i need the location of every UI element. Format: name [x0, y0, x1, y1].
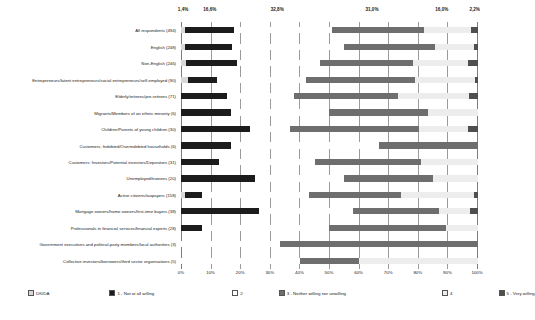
top-percent-annotation: 32,8% [271, 7, 284, 12]
category-label: Customers: Investors/Potential investors… [69, 159, 176, 164]
bar-row [181, 241, 478, 247]
bar-row [181, 60, 478, 66]
legend-swatch-icon [279, 290, 285, 296]
bar-segment-4 [419, 126, 469, 132]
category-label: Entrepreneurs/latent entrepreneurs/socia… [32, 77, 176, 82]
legend-label: 4 [450, 291, 452, 296]
bar-segment-3 [300, 258, 359, 264]
bar-segment-5 [468, 126, 478, 132]
bar-segment-1 [185, 44, 233, 50]
legend-label: DK/DA [36, 291, 49, 296]
top-percent-annotation: 16,0% [435, 7, 448, 12]
bar-segment-3 [320, 60, 413, 66]
bar-segment-4 [428, 109, 478, 115]
bar-segment-2 [181, 258, 300, 264]
bar-row [181, 126, 478, 132]
bar-segment-1 [181, 93, 227, 99]
bar-segment-2 [202, 225, 329, 231]
bar-segment-5 [470, 208, 478, 214]
legend-label: 3 - Neither willing nor unwilling [287, 291, 346, 296]
category-label: Elderly/retirees/pre-retirees (71) [115, 94, 176, 99]
bar-segment-5 [469, 93, 478, 99]
top-annotation-band: 1,4%16,6%32,8%31,0%16,0%2,2% [181, 6, 478, 21]
category-label: English (248) [151, 44, 176, 49]
legend-item[interactable]: 5 - Very willing [499, 290, 535, 296]
bar-segment-4 [359, 258, 478, 264]
x-tick-label: 100% [471, 270, 482, 275]
bar-segment-5 [474, 44, 478, 50]
bar-row [181, 44, 478, 50]
bar-segment-4 [398, 93, 469, 99]
category-label: Unemployed/trainees (20) [127, 176, 176, 181]
category-label: Government executives and political-part… [39, 242, 176, 247]
top-percent-annotation: 1,4% [178, 7, 188, 12]
bar-row [181, 142, 478, 148]
legend-item[interactable]: DK/DA [28, 290, 49, 296]
top-percent-annotation: 16,6% [203, 7, 216, 12]
bar-segment-3 [309, 192, 401, 198]
category-label: Children/Parents of young children (30) [101, 127, 176, 132]
bar-segment-2 [259, 208, 353, 214]
category-label: Migrants/Members of an ethnic minority (… [94, 110, 176, 115]
legend-label: 5 - Very willing [507, 291, 535, 296]
bar-segment-1 [181, 208, 259, 214]
bar-segment-3 [332, 27, 424, 33]
bar-segment-5 [474, 192, 478, 198]
bar-segment-1 [181, 126, 250, 132]
bar-segment-3 [344, 175, 433, 181]
bar-segment-1 [185, 192, 202, 198]
x-tick-label: 0% [178, 270, 184, 275]
category-label: Customers; Indebted/Overindebted househo… [80, 143, 177, 148]
legend-label: 1 - Not at all willing [117, 291, 154, 296]
bar-segment-1 [188, 77, 218, 83]
bar-segment-2 [227, 93, 294, 99]
bar-row [181, 77, 478, 83]
bar-row [181, 109, 478, 115]
bar-segment-5 [468, 60, 478, 66]
bar-segment-3 [315, 159, 420, 165]
bar-segment-2 [181, 241, 280, 247]
x-tick-label: 40% [295, 270, 304, 275]
legend-item[interactable]: 2 [232, 290, 242, 296]
bar-segment-5 [471, 27, 478, 33]
bar-segment-4 [439, 208, 470, 214]
bar-segment-3 [329, 225, 446, 231]
bar-row [181, 175, 478, 181]
bar-segment-4 [433, 175, 478, 181]
category-label: Collective investors/borrowers/third sec… [63, 258, 176, 263]
bar-segment-3 [379, 142, 478, 148]
legend-swatch-icon [442, 290, 448, 296]
bar-row [181, 225, 478, 231]
bar-segment-1 [186, 60, 237, 66]
legend-item[interactable]: 4 [442, 290, 452, 296]
x-tick-label: 50% [325, 270, 334, 275]
bar-segment-1 [181, 225, 202, 231]
legend-item[interactable]: 3 - Neither willing nor unwilling [279, 290, 346, 296]
legend-swatch-icon [499, 290, 505, 296]
x-tick-label: 90% [443, 270, 452, 275]
bar-segment-2 [255, 175, 344, 181]
bar-row [181, 208, 478, 214]
x-tick-label: 10% [206, 270, 215, 275]
bar-segment-4 [415, 77, 474, 83]
bar-segment-2 [237, 60, 320, 66]
legend-item[interactable]: 1 - Not at all willing [109, 290, 154, 296]
bar-segment-4 [401, 192, 474, 198]
top-percent-annotation: 31,0% [365, 7, 378, 12]
bar-segment-1 [181, 109, 231, 115]
bar-segment-3 [294, 93, 399, 99]
x-tick-label: 20% [236, 270, 245, 275]
legend-label: 2 [240, 291, 242, 296]
bar-segment-1 [181, 159, 219, 165]
x-tick-label: 80% [413, 270, 422, 275]
bar-segment-1 [181, 142, 231, 148]
bar-segment-3 [353, 208, 439, 214]
bar-segment-3 [306, 77, 415, 83]
legend-swatch-icon [232, 290, 238, 296]
bar-rows [181, 22, 478, 269]
bar-segment-5 [475, 77, 478, 83]
bar-segment-2 [202, 192, 309, 198]
legend-swatch-icon [28, 290, 34, 296]
top-percent-annotation: 2,2% [469, 7, 479, 12]
